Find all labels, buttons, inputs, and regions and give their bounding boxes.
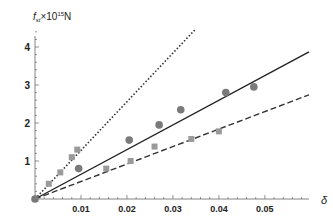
square-marker <box>57 169 63 175</box>
y-tick-label: 3 <box>24 80 30 91</box>
x-axis-label: δ <box>321 194 328 206</box>
square-marker <box>216 128 222 134</box>
fit-lines <box>35 29 309 199</box>
x-tick-label: 0.01 <box>72 204 90 214</box>
solid-fit-line <box>35 52 309 199</box>
x-tick-label: 0.05 <box>256 204 274 214</box>
data-points <box>31 83 257 203</box>
circle-marker <box>250 83 258 91</box>
y-axis-label: fst×1015N <box>33 11 71 23</box>
circle-marker <box>155 121 163 129</box>
square-marker <box>103 166 109 172</box>
circle-marker <box>31 195 39 203</box>
square-marker <box>188 136 194 142</box>
x-tick-label: 0.02 <box>118 204 136 214</box>
square-marker <box>74 147 80 153</box>
circle-marker <box>125 136 133 144</box>
plot-area: 0.010.020.030.040.051234 fst×1015N δ <box>0 0 333 224</box>
axes: 0.010.020.030.040.051234 <box>24 32 309 214</box>
y-tick-label: 2 <box>24 118 30 129</box>
circle-marker <box>222 89 230 97</box>
chart: 0.010.020.030.040.051234 fst×1015N δ <box>0 0 333 224</box>
x-tick-label: 0.04 <box>210 204 228 214</box>
circle-marker <box>75 165 83 173</box>
square-marker <box>69 154 75 160</box>
square-marker <box>152 144 158 150</box>
y-tick-label: 4 <box>24 42 30 53</box>
circle-marker <box>177 106 185 114</box>
x-tick-label: 0.03 <box>164 204 182 214</box>
y-tick-label: 1 <box>24 156 30 167</box>
square-marker <box>46 181 52 187</box>
square-marker <box>128 158 134 164</box>
